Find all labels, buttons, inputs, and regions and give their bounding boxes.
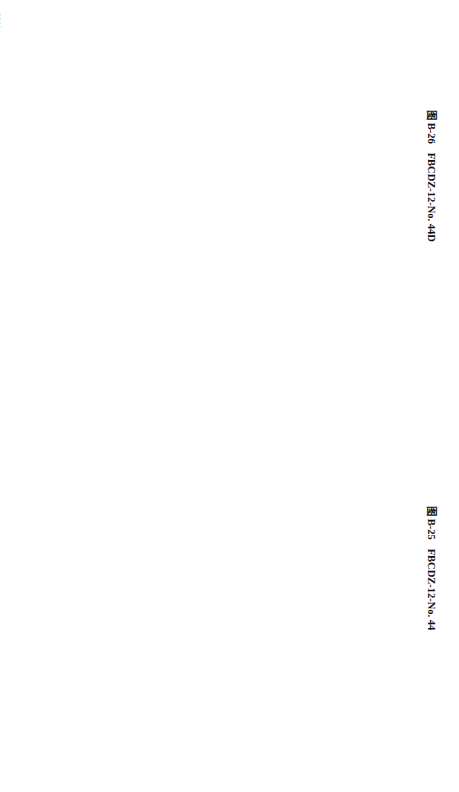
figure-b-26: 25°/20° 30°/25° 35°/30° 40°/35° 45°/40° …: [0, 2, 4, 392]
caption-title-b26: FBCDZ-12-No. 44D: [426, 153, 437, 242]
caption-title-b25: FBCDZ-12-No. 44: [426, 549, 437, 631]
book-page: 25°/20° 30°/25° 35°/30° 40°/35° 45°/40° …: [0, 0, 459, 792]
figure-b-25-caption: 图 B-25FBCDZ-12-No. 44: [425, 506, 440, 630]
figure-b-25: 20°/15° 25°/20° 30°/25° 35°/30° 40°/35° …: [0, 398, 4, 788]
caption-prefix-b26: 图 B-26: [426, 110, 437, 144]
figure-b-26-caption: 图 B-26FBCDZ-12-No. 44D: [425, 110, 440, 242]
caption-prefix-b25: 图 B-25: [426, 506, 437, 540]
